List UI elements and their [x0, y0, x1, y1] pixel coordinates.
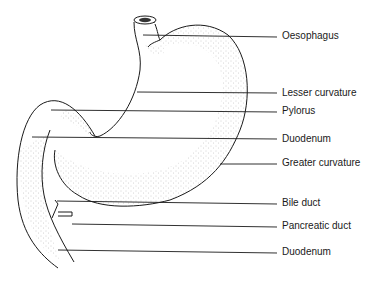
stomach-shape [54, 22, 247, 206]
label-duodenum-upper: Duodenum [282, 133, 331, 145]
label-duodenum-lower: Duodenum [282, 246, 331, 258]
label-greater-curvature: Greater curvature [282, 157, 360, 169]
label-bile-duct: Bile duct [282, 197, 320, 209]
ducts [52, 200, 72, 218]
label-oesophagus: Oesophagus [282, 30, 339, 42]
oesophagus-opening [134, 16, 156, 24]
label-lesser-curvature: Lesser curvature [282, 87, 356, 99]
label-pylorus: Pylorus [282, 105, 315, 117]
label-pancreatic-duct: Pancreatic duct [282, 220, 351, 232]
